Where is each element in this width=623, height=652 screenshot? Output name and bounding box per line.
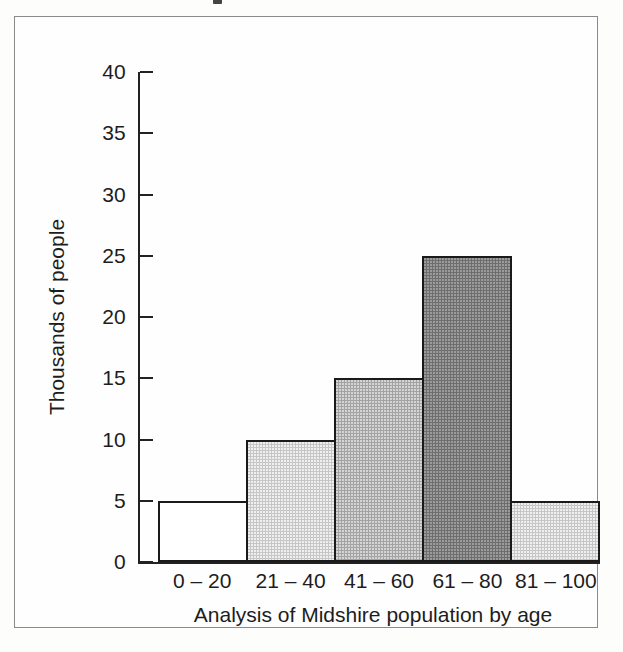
y-axis-tick: 10 bbox=[138, 439, 153, 441]
y-axis-tick-label: 15 bbox=[102, 366, 126, 390]
bar bbox=[334, 378, 424, 562]
y-axis-tick-mark bbox=[140, 500, 153, 502]
y-axis-tick-label: 35 bbox=[102, 121, 126, 145]
x-axis-tick-label: 61 – 80 bbox=[423, 569, 511, 593]
bar bbox=[422, 256, 512, 562]
y-axis-tick: 30 bbox=[138, 194, 153, 196]
bar bbox=[246, 440, 336, 563]
x-axis-tick-label: 21 – 40 bbox=[246, 569, 334, 593]
y-axis-tick-label: 30 bbox=[102, 183, 126, 207]
y-axis-tick-label: 0 bbox=[114, 550, 126, 574]
y-axis-tick: 20 bbox=[138, 316, 153, 318]
plot-area: 4035302520151050 bbox=[138, 72, 600, 562]
x-axis-tick-label: 0 – 20 bbox=[158, 569, 246, 593]
x-axis-tick-label: 81 – 100 bbox=[512, 569, 600, 593]
y-axis-tick-mark bbox=[140, 194, 153, 196]
y-axis-tick-label: 25 bbox=[102, 244, 126, 268]
y-axis-tick-label: 40 bbox=[102, 60, 126, 84]
y-axis-title: Thousands of people bbox=[42, 72, 72, 562]
y-axis-tick: 5 bbox=[138, 500, 153, 502]
cropped-text-fragment bbox=[213, 0, 222, 4]
x-axis-title: Analysis of Midshire population by age bbox=[138, 603, 608, 627]
y-axis-tick: 15 bbox=[138, 377, 153, 379]
x-axis-tick-label: 41 – 60 bbox=[335, 569, 423, 593]
y-axis-tick: 40 bbox=[138, 71, 153, 73]
bar-group bbox=[158, 72, 600, 562]
y-axis-tick: 0 bbox=[138, 561, 153, 563]
y-axis-tick-label: 5 bbox=[114, 489, 126, 513]
y-axis-tick-label: 20 bbox=[102, 305, 126, 329]
y-axis-tick: 25 bbox=[138, 255, 153, 257]
x-axis-tick-labels: 0 – 2021 – 4041 – 6061 – 8081 – 100 bbox=[158, 569, 600, 593]
y-axis-tick-mark bbox=[140, 439, 153, 441]
y-axis-tick-mark bbox=[140, 377, 153, 379]
y-axis-tick-mark bbox=[140, 316, 153, 318]
y-axis-tick-mark bbox=[140, 255, 153, 257]
y-axis-tick-mark bbox=[140, 132, 153, 134]
y-axis-tick-mark bbox=[140, 561, 153, 563]
bar bbox=[158, 501, 248, 562]
y-axis-tick: 35 bbox=[138, 132, 153, 134]
y-axis-tick-label: 10 bbox=[102, 428, 126, 452]
x-axis-line bbox=[138, 562, 600, 564]
figure-frame: 4035302520151050 0 – 2021 – 4041 – 6061 … bbox=[14, 16, 598, 628]
scanned-figure-page: 4035302520151050 0 – 2021 – 4041 – 6061 … bbox=[0, 0, 623, 652]
bar bbox=[510, 501, 600, 562]
y-axis-tick-mark bbox=[140, 71, 153, 73]
